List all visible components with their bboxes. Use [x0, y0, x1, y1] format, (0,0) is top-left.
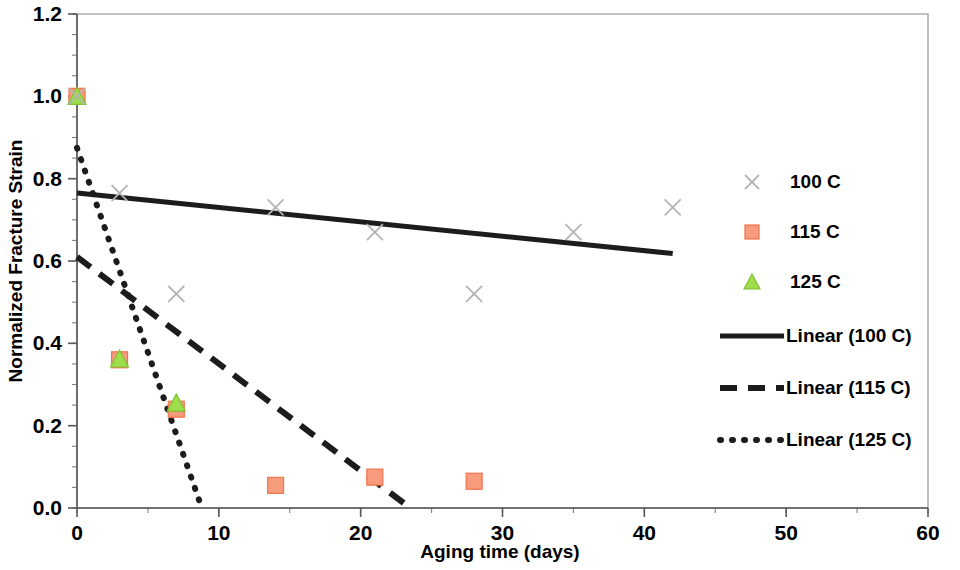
x-tick-label: 50: [774, 521, 797, 544]
y-axis-title: Normalized Fracture Strain: [5, 140, 26, 383]
y-tick-label: 0.0: [33, 496, 62, 519]
legend-label: 100 C: [790, 171, 841, 192]
data-point-x: [367, 224, 383, 240]
y-tick-label: 0.6: [33, 249, 62, 272]
data-point-square: [367, 469, 383, 485]
legend-label: Linear (115 C): [786, 377, 911, 398]
y-axis-tick-labels: 0.00.20.40.60.81.01.2: [33, 2, 63, 519]
data-markers-group: [68, 87, 681, 493]
x-tick-label: 40: [633, 521, 656, 544]
y-tick-label: 0.8: [33, 167, 63, 190]
x-tick-label: 20: [349, 521, 372, 544]
trendlines-group: [77, 148, 673, 508]
y-tick-label: 0.4: [33, 331, 63, 354]
data-point-square: [268, 477, 284, 493]
legend-label: 125 C: [790, 271, 841, 292]
x-tick-label: 10: [207, 521, 230, 544]
chart-canvas: 0.00.20.40.60.81.01.2 0102030405060 Agin…: [0, 0, 960, 570]
y-tick-label: 1.0: [33, 84, 62, 107]
legend-label: 115 C: [790, 221, 840, 242]
data-point-x: [565, 224, 581, 240]
data-point-x: [665, 199, 681, 215]
data-point-x: [168, 286, 184, 302]
chart-figure: 0.00.20.40.60.81.01.2 0102030405060 Agin…: [0, 0, 960, 570]
data-point-x: [466, 286, 482, 302]
chart-legend: 100 C115 C125 CLinear (100 C)Linear (115…: [720, 171, 912, 450]
x-tick-label: 60: [916, 521, 939, 544]
data-point-triangle: [744, 274, 760, 289]
data-point-square: [745, 225, 759, 239]
x-axis-major-ticks: [77, 508, 928, 517]
y-tick-label: 0.2: [33, 414, 62, 437]
legend-label: Linear (125 C): [786, 429, 912, 450]
data-point-x: [745, 175, 759, 189]
data-point-square: [466, 473, 482, 489]
x-tick-label: 0: [71, 521, 83, 544]
legend-label: Linear (100 C): [786, 325, 912, 346]
x-axis-title: Aging time (days): [420, 541, 579, 562]
y-tick-label: 1.2: [33, 2, 62, 25]
trendline: [77, 193, 673, 254]
